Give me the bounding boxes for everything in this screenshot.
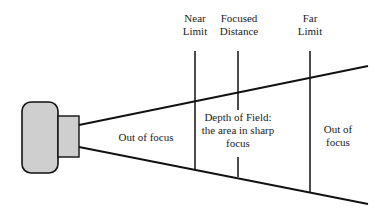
far-out-of-focus-line2: focus	[318, 136, 358, 149]
far-limit-label-line1: Far	[290, 12, 330, 25]
depth-of-field-label: Depth of Field: the area in sharp focus	[200, 111, 276, 150]
near-out-of-focus-label: Out of focus	[106, 131, 186, 144]
depth-of-field-line3: focus	[200, 137, 276, 150]
focused-distance-label-line1: Focused	[213, 12, 265, 25]
far-limit-label: Far Limit	[290, 12, 330, 38]
near-limit-label-line2: Limit	[175, 25, 215, 38]
near-limit-label-line1: Near	[175, 12, 215, 25]
far-out-of-focus-label: Out of focus	[318, 123, 358, 149]
near-limit-label: Near Limit	[175, 12, 215, 38]
far-limit-label-line2: Limit	[290, 25, 330, 38]
camera-body	[22, 102, 58, 173]
far-out-of-focus-line1: Out of	[318, 123, 358, 136]
view-cone-lower	[79, 147, 368, 204]
camera-lens	[58, 116, 79, 157]
focused-distance-label: Focused Distance	[213, 12, 265, 38]
depth-of-field-line1: Depth of Field:	[200, 111, 276, 124]
depth-of-field-line2: the area in sharp	[200, 124, 276, 137]
focused-distance-label-line2: Distance	[213, 25, 265, 38]
